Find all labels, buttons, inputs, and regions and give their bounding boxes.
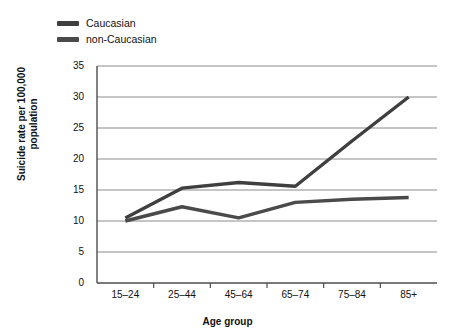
y-axis-title: Suicide rate per 100,000 population [16,24,40,224]
chart-figure: Caucasian non-Caucasian 35302520151050 1… [0,0,455,335]
y-axis-tick-label: 10 [58,216,84,226]
y-axis-tick-label: 25 [58,123,84,133]
y-axis-tick-label: 35 [58,61,84,71]
x-axis-title: Age group [0,316,455,327]
y-axis-title-line1: Suicide rate per 100,000 [16,24,28,224]
y-axis-tick-label: 5 [58,247,84,257]
series-line-non-caucasian [125,197,408,221]
y-axis-title-line2: population [28,24,40,224]
x-axis-tick-label: 25–44 [154,289,211,300]
x-axis-tick-label: 45–64 [210,289,267,300]
gridlines [97,66,437,252]
x-axis-tick-label: 75–84 [324,289,381,300]
y-axis-tick-label: 20 [58,154,84,164]
y-axis-tick-label: 0 [58,278,84,288]
y-axis-tick-label: 30 [58,92,84,102]
x-axis-tick-label: 65–74 [267,289,324,300]
y-axis-tick-label: 15 [58,185,84,195]
x-axis-tick-label: 15–24 [97,289,154,300]
x-axis-tick-label: 85+ [380,289,437,300]
